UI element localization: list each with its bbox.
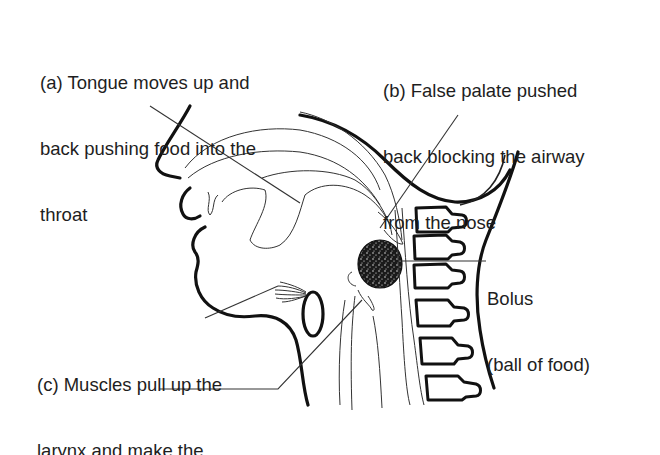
label-bolus-line-2: (ball of food) xyxy=(487,354,590,376)
tongue-back xyxy=(262,171,390,225)
label-bolus: Bolus (ball of food) xyxy=(487,244,590,398)
throat-line-2 xyxy=(373,316,382,408)
hyoid-larynx xyxy=(303,292,323,336)
label-b-line-3: from the nose xyxy=(383,212,585,234)
label-tongue: (a) Tongue moves up and back pushing foo… xyxy=(40,28,256,248)
label-a-line-2: back pushing food into the xyxy=(40,138,256,160)
leader-c xyxy=(205,286,278,318)
throat-line-3 xyxy=(339,300,345,405)
label-c-line-2: larynx and make the xyxy=(37,440,222,455)
label-b-line-2: back blocking the airway xyxy=(383,146,585,168)
label-c-line-1: (c) Muscles pull up the xyxy=(37,374,222,396)
muscles xyxy=(275,282,306,302)
label-b-line-1: (b) False palate pushed xyxy=(383,80,585,102)
throat-line-1 xyxy=(351,296,355,410)
label-a-line-1: (a) Tongue moves up and xyxy=(40,72,256,94)
label-false-palate: (b) False palate pushed back blocking th… xyxy=(383,36,585,256)
label-bolus-line-1: Bolus xyxy=(487,288,590,310)
label-muscles: (c) Muscles pull up the larynx and make … xyxy=(37,330,222,455)
label-a-line-3: throat xyxy=(40,204,256,226)
